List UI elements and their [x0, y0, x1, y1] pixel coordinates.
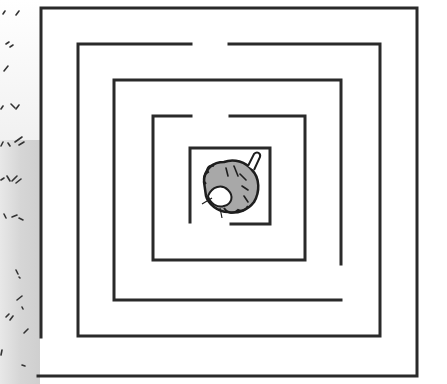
- mouse-creature-icon: [202, 153, 260, 218]
- maze-scene: [0, 0, 447, 384]
- speckle-marks: [1, 11, 28, 366]
- maze-drawing: [0, 0, 447, 384]
